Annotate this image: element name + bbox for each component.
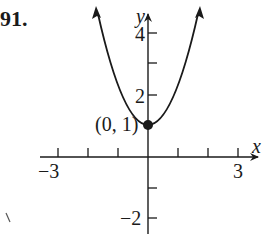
- stray-mark: [6, 213, 10, 222]
- left-arrowhead-icon: [92, 6, 101, 19]
- point-label: (0, 1): [95, 114, 138, 134]
- x-tick-label-3: 3: [233, 161, 243, 181]
- x-tick-label-neg3: −3: [38, 161, 59, 181]
- y-tick-label-4: 4: [135, 24, 145, 44]
- y-tick-label-neg2: −2: [120, 208, 141, 228]
- vertex-point: [143, 120, 153, 130]
- x-axis-label: x: [252, 136, 261, 156]
- right-arrowhead-icon: [195, 6, 204, 19]
- y-tick-label-2: 2: [135, 86, 145, 106]
